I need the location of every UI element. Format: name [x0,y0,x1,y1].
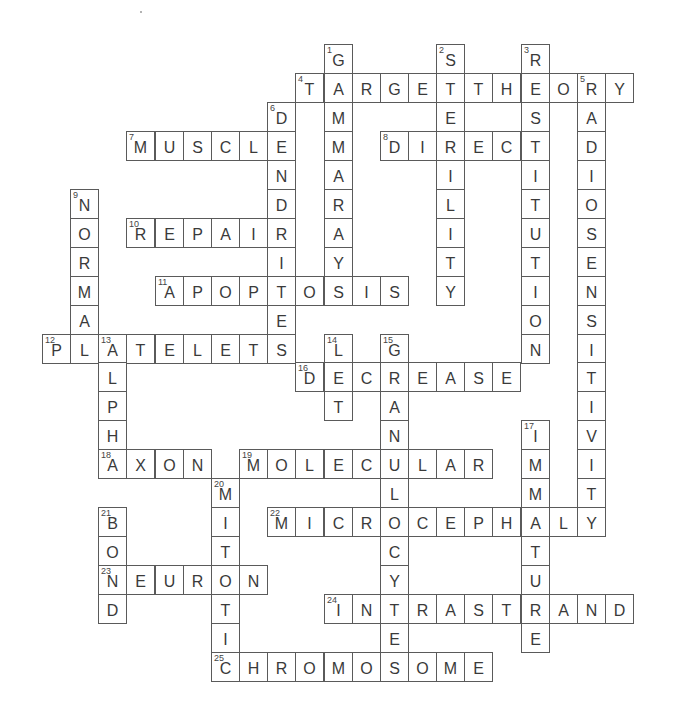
grid-cell[interactable]: A [324,160,353,190]
grid-cell[interactable]: D [577,131,606,161]
grid-cell[interactable]: T [492,594,521,624]
grid-cell[interactable]: L [98,362,127,392]
grid-cell[interactable]: I [577,391,606,421]
grid-cell[interactable]: G [380,73,409,103]
grid-cell[interactable]: R [464,449,493,479]
grid-cell[interactable]: E [324,449,353,479]
grid-cell[interactable]: A [324,73,353,103]
grid-cell[interactable]: I [239,218,268,248]
grid-cell[interactable]: 17I [521,420,550,450]
grid-cell[interactable]: O [211,276,240,306]
grid-cell[interactable]: I [577,449,606,479]
grid-cell[interactable]: T [436,247,465,277]
grid-cell[interactable]: I [295,507,324,537]
grid-cell[interactable]: N [577,276,606,306]
grid-cell[interactable]: I [408,131,437,161]
grid-cell[interactable]: D [605,594,634,624]
grid-cell[interactable]: E [521,73,550,103]
grid-cell[interactable]: S [464,594,493,624]
grid-cell[interactable]: C [380,536,409,566]
grid-cell[interactable]: A [436,594,465,624]
grid-cell[interactable]: N [521,334,550,364]
grid-cell[interactable]: V [577,420,606,450]
grid-cell[interactable]: O [577,189,606,219]
grid-cell[interactable]: 25C [211,652,240,682]
grid-cell[interactable]: C [324,507,353,537]
grid-cell[interactable]: I [577,334,606,364]
grid-cell[interactable]: S [577,218,606,248]
grid-cell[interactable]: U [155,565,184,595]
grid-cell[interactable]: 24I [324,594,353,624]
grid-cell[interactable]: 11A [155,276,184,306]
grid-cell[interactable]: A [549,594,578,624]
grid-cell[interactable]: I [211,623,240,653]
grid-cell[interactable]: T [211,594,240,624]
grid-cell[interactable]: E [155,334,184,364]
grid-cell[interactable]: E [521,623,550,653]
grid-cell[interactable]: 18A [98,449,127,479]
grid-cell[interactable]: I [211,507,240,537]
grid-cell[interactable]: T [521,536,550,566]
grid-cell[interactable]: 21B [98,507,127,537]
grid-cell[interactable]: L [380,478,409,508]
grid-cell[interactable]: S [380,652,409,682]
grid-cell[interactable]: I [521,276,550,306]
grid-cell[interactable]: S [464,362,493,392]
grid-cell[interactable]: C [492,131,521,161]
grid-cell[interactable]: L [436,189,465,219]
grid-cell[interactable]: P [98,391,127,421]
grid-cell[interactable]: R [521,594,550,624]
grid-cell[interactable]: 2S [436,44,465,74]
grid-cell[interactable]: M [521,449,550,479]
grid-cell[interactable]: I [436,218,465,248]
grid-cell[interactable]: S [183,131,212,161]
grid-cell[interactable]: R [267,652,296,682]
grid-cell[interactable]: A [521,507,550,537]
grid-cell[interactable]: E [155,218,184,248]
grid-cell[interactable]: S [380,276,409,306]
grid-cell[interactable]: M [521,478,550,508]
grid-cell[interactable]: O [70,218,99,248]
grid-cell[interactable]: 23N [98,565,127,595]
grid-cell[interactable]: L [183,334,212,364]
grid-cell[interactable]: 4T [295,73,324,103]
grid-cell[interactable]: N [267,160,296,190]
grid-cell[interactable]: E [267,131,296,161]
grid-cell[interactable]: Y [577,507,606,537]
grid-cell[interactable]: E [126,565,155,595]
grid-cell[interactable]: U [521,565,550,595]
grid-cell[interactable]: T [126,334,155,364]
grid-cell[interactable]: E [577,247,606,277]
grid-cell[interactable]: H [492,73,521,103]
grid-cell[interactable]: R [267,218,296,248]
grid-cell[interactable]: I [521,160,550,190]
grid-cell[interactable]: P [183,218,212,248]
grid-cell[interactable]: E [380,623,409,653]
grid-cell[interactable]: O [380,507,409,537]
grid-cell[interactable]: A [436,362,465,392]
grid-cell[interactable]: 15G [380,334,409,364]
grid-cell[interactable]: E [408,362,437,392]
grid-cell[interactable]: E [436,507,465,537]
grid-cell[interactable]: E [324,362,353,392]
grid-cell[interactable]: C [352,449,381,479]
grid-cell[interactable]: O [267,449,296,479]
grid-cell[interactable]: O [352,652,381,682]
grid-cell[interactable]: T [464,73,493,103]
grid-cell[interactable]: 8D [380,131,409,161]
grid-cell[interactable]: 10R [126,218,155,248]
grid-cell[interactable]: 20M [211,478,240,508]
grid-cell[interactable]: N [183,449,212,479]
grid-cell[interactable]: H [239,652,268,682]
grid-cell[interactable]: U [155,131,184,161]
grid-cell[interactable]: E [492,362,521,392]
grid-cell[interactable]: L [70,334,99,364]
grid-cell[interactable]: M [70,276,99,306]
grid-cell[interactable]: P [239,276,268,306]
grid-cell[interactable]: C [211,131,240,161]
grid-cell[interactable]: H [98,420,127,450]
grid-cell[interactable]: 14L [324,334,353,364]
grid-cell[interactable]: O [295,652,324,682]
grid-cell[interactable]: C [352,362,381,392]
grid-cell[interactable]: 9N [70,189,99,219]
